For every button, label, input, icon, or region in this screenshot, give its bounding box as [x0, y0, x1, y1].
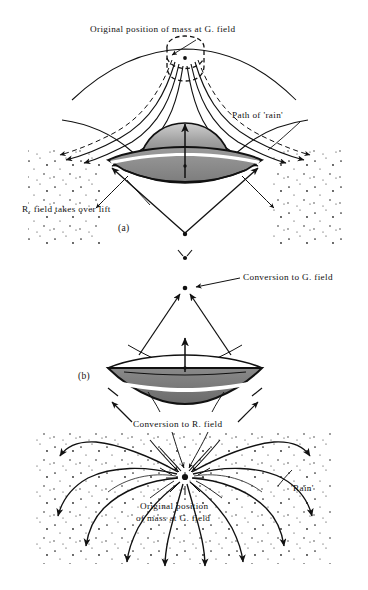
label-bottom-original-line1: Original position	[140, 501, 208, 512]
craft-b	[108, 338, 262, 404]
label-conversion-to-r-field: Conversion to R. field	[133, 419, 222, 430]
convergence-point-a	[183, 232, 187, 236]
label-bottom-original-line2: of mass at G. field	[136, 513, 210, 524]
pointer-original-position-a	[172, 40, 196, 55]
escaped-mass-dot-b	[183, 256, 187, 260]
label-original-position-top: Original position of mass at G. field	[90, 24, 235, 35]
pointer-r-field-lift	[127, 180, 150, 205]
pointer-conversion-g	[196, 278, 240, 287]
rain-speckle-b	[36, 432, 332, 564]
burst-center-dot-b	[182, 474, 188, 480]
escaped-mass-ticks-b	[178, 250, 192, 256]
label-r-field-takes-over-lift: R. field takes over lift	[22, 204, 111, 215]
conversion-g-point-b	[183, 286, 188, 291]
panel-label-a: (a)	[118, 223, 129, 233]
pointer-path-of-rain	[268, 122, 300, 150]
panel-label-b: (b)	[78, 371, 90, 381]
label-rain: 'Rain'	[291, 483, 314, 494]
craft-b-center-dot	[183, 366, 186, 369]
label-conversion-to-g-field: Conversion to G. field	[243, 272, 333, 283]
label-path-of-rain: Path of 'rain'	[232, 110, 283, 121]
craft-a-center-dot	[183, 164, 186, 167]
craft-a	[108, 123, 262, 183]
original-mass-center-dot-a	[183, 56, 187, 60]
